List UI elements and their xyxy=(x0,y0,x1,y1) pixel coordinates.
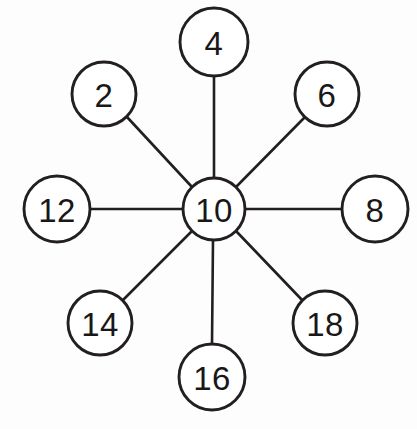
node-outer-14[interactable]: 14 xyxy=(68,291,132,355)
node-outer-2-label: 2 xyxy=(95,77,114,114)
node-outer-18[interactable]: 18 xyxy=(293,291,357,355)
node-outer-14-label: 14 xyxy=(81,306,119,343)
node-outer-8-label: 8 xyxy=(366,192,385,229)
node-outer-2[interactable]: 2 xyxy=(72,62,136,126)
node-outer-6-label: 6 xyxy=(318,77,337,114)
node-outer-12-label: 12 xyxy=(38,192,76,229)
node-outer-4-label: 4 xyxy=(205,25,224,62)
node-circles-group: 10468181614122 xyxy=(24,8,408,410)
spoke-line-10-to-18 xyxy=(236,231,303,301)
node-outer-18-label: 18 xyxy=(306,306,344,343)
spoke-line-10-to-16 xyxy=(212,240,213,344)
spoke-line-10-to-14 xyxy=(123,231,192,300)
node-outer-12[interactable]: 12 xyxy=(24,176,90,242)
node-outer-16-label: 16 xyxy=(193,360,231,397)
number-web-diagram: 10468181614122 xyxy=(0,0,417,429)
spoke-line-10-to-2 xyxy=(127,117,192,187)
diagram-canvas: 10468181614122 xyxy=(0,0,417,429)
node-center-10[interactable]: 10 xyxy=(183,178,245,240)
spoke-line-10-to-6 xyxy=(236,117,305,187)
node-center-10-label: 10 xyxy=(195,192,233,229)
node-outer-8[interactable]: 8 xyxy=(342,176,408,242)
node-outer-4[interactable]: 4 xyxy=(180,8,248,76)
node-outer-6[interactable]: 6 xyxy=(295,62,359,126)
node-outer-16[interactable]: 16 xyxy=(179,344,245,410)
